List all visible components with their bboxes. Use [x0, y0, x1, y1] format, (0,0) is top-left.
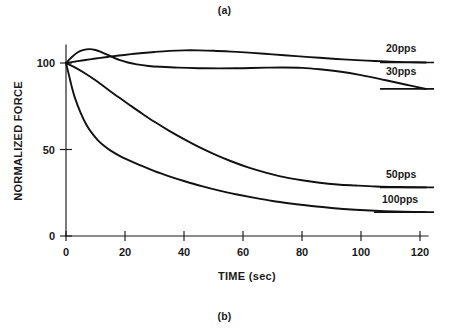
- y-axis-title: NORMALIZED FORCE: [12, 81, 24, 201]
- figure-panel: (a) 020406080100120 050100 20pps30pps50p…: [0, 0, 449, 333]
- series-curve-50pps: [66, 63, 426, 187]
- x-tick-label-80: 80: [296, 246, 308, 258]
- normalized-force-vs-time-chart: 020406080100120 050100 20pps30pps50pps10…: [0, 0, 449, 333]
- x-tick-label-0: 0: [63, 246, 69, 258]
- x-axis-title: TIME (sec): [218, 270, 276, 282]
- x-axis-ticks: 020406080100120: [63, 231, 429, 258]
- chart-series-labels: 20pps30pps50pps100pps: [374, 42, 434, 212]
- y-tick-label-50: 50: [43, 144, 55, 156]
- series-label-100pps: 100pps: [382, 193, 418, 205]
- series-label-30pps: 30pps: [386, 65, 417, 77]
- x-tick-label-40: 40: [178, 246, 190, 258]
- chart-series-curves: [66, 49, 426, 212]
- x-tick-label-100: 100: [352, 246, 370, 258]
- y-tick-label-100: 100: [37, 57, 55, 69]
- x-tick-label-120: 120: [411, 246, 429, 258]
- x-tick-label-60: 60: [237, 246, 249, 258]
- y-tick-label-0: 0: [49, 230, 55, 242]
- series-label-50pps: 50pps: [386, 168, 417, 180]
- series-curve-100pps: [66, 63, 426, 212]
- y-axis-ticks: 050100: [37, 57, 72, 242]
- chart-axes: [66, 45, 428, 236]
- figure-caption-bottom: (b): [0, 310, 449, 322]
- x-tick-label-20: 20: [119, 246, 131, 258]
- series-label-20pps: 20pps: [386, 42, 417, 54]
